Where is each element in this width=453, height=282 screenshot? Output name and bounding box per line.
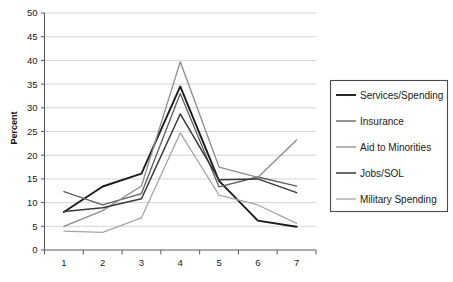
y-tick-label: 5 — [32, 221, 37, 232]
legend-item-label[interactable]: Military Spending — [360, 194, 437, 205]
y-tick-label: 25 — [27, 126, 38, 137]
y-tick-label: 15 — [27, 173, 38, 184]
x-tick-label: 1 — [61, 257, 66, 268]
y-tick-label: 10 — [27, 197, 38, 208]
y-tick-label: 35 — [27, 79, 38, 90]
series-line — [64, 133, 297, 233]
y-tick-label: 20 — [27, 150, 38, 161]
y-tick-label: 50 — [27, 7, 38, 18]
x-tick-label: 3 — [139, 257, 144, 268]
chart-container: 05101520253035404550 1234567 Percent Ser… — [0, 0, 453, 282]
y-tick-label: 45 — [27, 31, 38, 42]
legend-item-label[interactable]: Insurance — [360, 116, 404, 127]
x-axis-tick-labels: 1234567 — [61, 257, 299, 268]
series-line — [64, 114, 297, 212]
gridlines — [45, 13, 317, 226]
legend-item-label[interactable]: Services/Spending — [360, 90, 443, 101]
legend-item-label[interactable]: Jobs/SOL — [360, 168, 404, 179]
x-tick-label: 4 — [178, 257, 183, 268]
series-lines — [64, 62, 297, 233]
legend-item-label[interactable]: Aid to Minorities — [360, 142, 431, 153]
y-tick-label: 0 — [32, 244, 37, 255]
x-tick-label: 7 — [294, 257, 299, 268]
x-tick-label: 6 — [255, 257, 260, 268]
x-tick-label: 5 — [216, 257, 221, 268]
y-axis-title: Percent — [9, 111, 19, 144]
x-tick-label: 2 — [100, 257, 105, 268]
y-tick-label: 40 — [27, 55, 38, 66]
percent-line-chart: 05101520253035404550 1234567 Percent Ser… — [0, 0, 453, 282]
x-axis-tick-marks — [45, 250, 317, 255]
y-tick-label: 30 — [27, 102, 38, 113]
y-axis-tick-labels: 05101520253035404550 — [27, 7, 38, 255]
